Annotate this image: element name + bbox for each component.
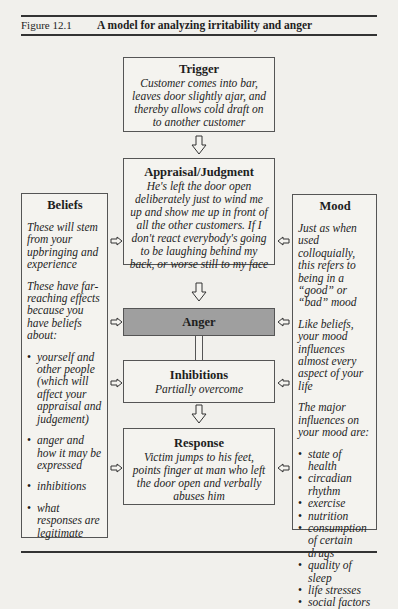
trigger-box: Trigger Customer comes into bar, leaves … — [123, 57, 275, 132]
left-arrow-icon — [277, 378, 290, 388]
bottom-rule — [21, 551, 377, 553]
figure-number: Figure 12.1 — [21, 19, 72, 31]
mood-list-item: nutrition — [298, 510, 372, 522]
figure-caption: Figure 12.1 A model for analyzing irrita… — [21, 19, 312, 31]
response-heading: Response — [124, 436, 274, 451]
mood-paragraph: Just as when used colloquially, this ref… — [298, 222, 372, 309]
mood-heading: Mood — [298, 199, 372, 214]
mood-list-item: exercise — [298, 497, 372, 509]
anger-heading: Anger — [182, 315, 215, 330]
beliefs-list-item: yourself and other people (which will af… — [27, 351, 103, 425]
mood-paragraph: Like beliefs, your mood influences almos… — [298, 318, 372, 392]
beliefs-list-item: what responses are legitimate — [27, 502, 103, 539]
mood-box: Mood Just as when used colloquially, thi… — [292, 194, 377, 530]
mood-list-item: consumption of certain drugs — [298, 522, 372, 559]
mood-list-item: circadian rhythm — [298, 472, 372, 497]
left-arrow-icon — [277, 463, 290, 473]
mood-list-item: life stresses — [298, 584, 372, 596]
inhibitions-text: Partially overcome — [124, 383, 274, 396]
right-arrow-icon — [110, 317, 123, 327]
appraisal-heading: Appraisal/Judgment — [124, 165, 274, 180]
left-arrow-icon — [277, 236, 290, 246]
down-arrow-icon — [191, 282, 207, 302]
down-arrow-icon — [191, 135, 207, 155]
appraisal-box: Appraisal/Judgment He's left the door op… — [123, 158, 275, 265]
mood-list-item: quality of sleep — [298, 559, 372, 584]
response-text: Victim jumps to his feet, points finger … — [124, 451, 274, 503]
anger-box: Anger — [123, 308, 275, 336]
left-arrow-icon — [277, 317, 290, 327]
anger-inhibitions-connector — [195, 336, 203, 360]
mood-list-item: social factors — [298, 596, 372, 608]
beliefs-list-item: anger and how it may be expressed — [27, 434, 103, 471]
inhibitions-box: Inhibitions Partially overcome — [123, 360, 275, 403]
appraisal-text: He's left the door open deliberately jus… — [124, 180, 274, 271]
beliefs-list: yourself and other people (which will af… — [27, 351, 103, 539]
response-box: Response Victim jumps to his feet, point… — [123, 428, 275, 505]
beliefs-list-item: inhibitions — [27, 480, 103, 492]
trigger-text: Customer comes into bar, leaves door sli… — [124, 77, 274, 129]
beliefs-paragraph: These have far-reaching effects because … — [27, 280, 103, 342]
right-arrow-icon — [110, 463, 123, 473]
beliefs-paragraph: These will stem from your upbringing and… — [27, 221, 103, 271]
inhibitions-heading: Inhibitions — [124, 368, 274, 383]
mood-list-item: state of health — [298, 448, 372, 473]
figure-title: A model for analyzing irritability and a… — [97, 19, 312, 31]
mood-list: state of health circadian rhythm exercis… — [298, 448, 372, 609]
top-rule — [21, 15, 377, 17]
mood-paragraph: The major influences on your mood are: — [298, 401, 372, 438]
down-arrow-icon — [191, 404, 207, 424]
trigger-heading: Trigger — [124, 62, 274, 77]
right-arrow-icon — [110, 378, 123, 388]
right-arrow-icon — [110, 236, 123, 246]
title-rule — [21, 34, 377, 36]
beliefs-box: Beliefs These will stem from your upbrin… — [21, 193, 108, 538]
beliefs-heading: Beliefs — [27, 198, 103, 213]
